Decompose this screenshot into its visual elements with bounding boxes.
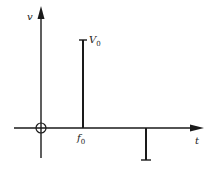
position-label-sub: 0 <box>81 138 85 146</box>
impulse-position-label: f0 <box>77 133 85 146</box>
x-axis-label: t <box>195 136 199 146</box>
y-axis-label: v <box>27 12 33 22</box>
impulse-height-label: V0 <box>89 35 101 48</box>
height-label-sub: 0 <box>96 40 100 48</box>
x-axis-arrow-icon <box>190 125 204 132</box>
impulse-diagram: v t V0 f0 <box>0 0 218 169</box>
diagram-graphics <box>0 0 218 169</box>
y-axis-arrow-icon <box>38 6 45 19</box>
